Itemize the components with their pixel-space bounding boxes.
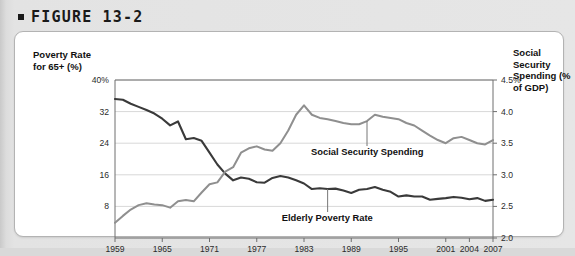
chart-card: Poverty Rate for 65+ (%) Social Security… — [14, 31, 564, 237]
y-axis-right-tick-label: 2.5 — [501, 201, 513, 211]
x-axis-tick-label: 2004 — [460, 244, 479, 254]
series-label-elderly-poverty-rate: Elderly Poverty Rate — [282, 212, 373, 223]
y-axis-left-tick-label: 16 — [99, 170, 109, 180]
x-axis-tick-label: 1971 — [200, 244, 219, 254]
x-axis-tick-label: 1965 — [153, 244, 172, 254]
x-axis-tick-label: 1995 — [389, 244, 408, 254]
series-line — [115, 99, 493, 201]
series-label-social-security-spending: Social Security Spending — [311, 146, 424, 157]
x-axis-tick-label: 1983 — [294, 244, 313, 254]
x-axis-tick-label: 1977 — [247, 244, 266, 254]
x-axis-tick-label: 1989 — [342, 244, 361, 254]
y-axis-right-tick-label: 3.0 — [501, 170, 513, 180]
y-axis-left-tick-label: 32 — [99, 107, 109, 117]
y-axis-left-tick-label: 8 — [104, 201, 109, 211]
chart-plot: 816243240%2.02.53.03.54.04.5%19591965197… — [15, 32, 575, 256]
y-axis-right-tick-label: 4.0 — [501, 107, 513, 117]
square-bullet-icon — [18, 14, 24, 20]
y-axis-right-tick-label: 4.5% — [501, 75, 521, 85]
x-axis-tick-label: 2001 — [436, 244, 455, 254]
y-axis-right-tick-label: 3.5 — [501, 138, 513, 148]
y-axis-left-tick-label: 24 — [99, 138, 109, 148]
y-axis-left-tick-label: 40% — [92, 75, 110, 85]
y-axis-right-tick-label: 2.0 — [501, 233, 513, 243]
x-axis-tick-label: 1959 — [105, 244, 124, 254]
x-axis-tick-label: 2007 — [483, 244, 502, 254]
figure-title: FIGURE 13-2 — [31, 8, 144, 26]
series-line — [115, 105, 493, 223]
figure-header: FIGURE 13-2 — [18, 6, 144, 28]
